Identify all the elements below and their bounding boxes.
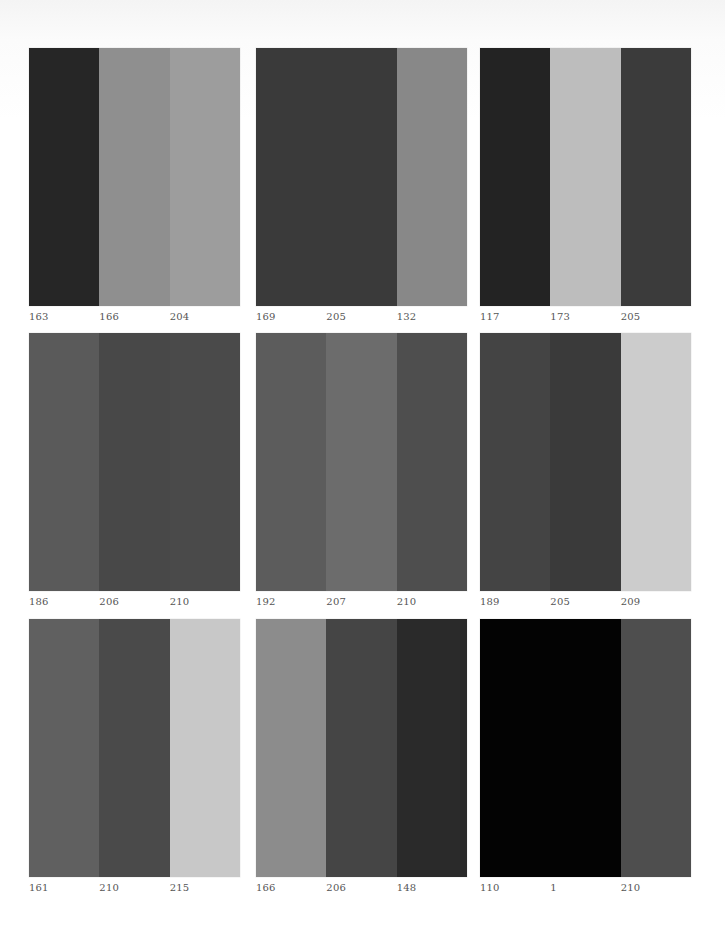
swatch-panel-4: 186 206 210 — [29, 333, 240, 591]
swatch-strip — [256, 333, 467, 591]
value-labels: 186 206 210 — [29, 595, 240, 609]
swatch-9-b — [550, 619, 620, 877]
swatch-panel-6: 189 205 209 — [480, 333, 691, 591]
value-label: 166 — [256, 881, 326, 895]
swatch-grid: 163 166 204 169 205 132 117 173 205 — [0, 0, 725, 934]
swatch-3-a — [480, 48, 550, 306]
value-label: 210 — [621, 881, 691, 895]
value-label: 1 — [550, 881, 620, 895]
value-label: 166 — [99, 310, 169, 324]
value-label: 210 — [170, 595, 240, 609]
swatch-panel-3: 117 173 205 — [480, 48, 691, 306]
value-label: 189 — [480, 595, 550, 609]
value-labels: 161 210 215 — [29, 881, 240, 895]
value-label: 204 — [170, 310, 240, 324]
value-label: 132 — [397, 310, 467, 324]
swatch-4-a — [29, 333, 99, 591]
swatch-4-b — [99, 333, 169, 591]
value-labels: 166 206 148 — [256, 881, 467, 895]
value-label: 206 — [99, 595, 169, 609]
value-label: 206 — [326, 881, 396, 895]
swatch-strip — [29, 333, 240, 591]
swatch-strip — [29, 48, 240, 306]
swatch-6-a — [480, 333, 550, 591]
swatch-6-b — [550, 333, 620, 591]
swatch-5-b — [326, 333, 396, 591]
swatch-panel-5: 192 207 210 — [256, 333, 467, 591]
value-label: 161 — [29, 881, 99, 895]
swatch-panel-8: 166 206 148 — [256, 619, 467, 877]
value-label: 169 — [256, 310, 326, 324]
value-label: 210 — [99, 881, 169, 895]
swatch-strip — [480, 333, 691, 591]
swatch-7-a — [29, 619, 99, 877]
swatch-panel-1: 163 166 204 — [29, 48, 240, 306]
swatch-6-c — [621, 333, 691, 591]
swatch-8-c — [397, 619, 467, 877]
swatch-9-c — [621, 619, 691, 877]
value-labels: 189 205 209 — [480, 595, 691, 609]
swatch-5-a — [256, 333, 326, 591]
swatch-2-c — [397, 48, 467, 306]
swatch-5-c — [397, 333, 467, 591]
swatch-7-b — [99, 619, 169, 877]
swatch-1-a — [29, 48, 99, 306]
swatch-3-b — [550, 48, 620, 306]
swatch-2-a — [256, 48, 326, 306]
swatch-4-c — [170, 333, 240, 591]
swatch-strip — [256, 619, 467, 877]
value-label: 215 — [170, 881, 240, 895]
value-label: 186 — [29, 595, 99, 609]
value-labels: 117 173 205 — [480, 310, 691, 324]
value-label: 205 — [621, 310, 691, 324]
swatch-3-c — [621, 48, 691, 306]
swatch-strip — [480, 48, 691, 306]
swatch-panel-2: 169 205 132 — [256, 48, 467, 306]
swatch-8-a — [256, 619, 326, 877]
swatch-panel-7: 161 210 215 — [29, 619, 240, 877]
swatch-strip — [256, 48, 467, 306]
value-labels: 163 166 204 — [29, 310, 240, 324]
value-label: 173 — [550, 310, 620, 324]
value-label: 209 — [621, 595, 691, 609]
value-label: 163 — [29, 310, 99, 324]
swatch-1-b — [99, 48, 169, 306]
swatch-strip — [480, 619, 691, 877]
value-label: 205 — [550, 595, 620, 609]
swatch-7-c — [170, 619, 240, 877]
value-labels: 169 205 132 — [256, 310, 467, 324]
value-label: 192 — [256, 595, 326, 609]
value-label: 205 — [326, 310, 396, 324]
value-label: 117 — [480, 310, 550, 324]
value-label: 148 — [397, 881, 467, 895]
value-label: 210 — [397, 595, 467, 609]
swatch-panel-9: 110 1 210 — [480, 619, 691, 877]
value-labels: 192 207 210 — [256, 595, 467, 609]
swatch-8-b — [326, 619, 396, 877]
value-labels: 110 1 210 — [480, 881, 691, 895]
swatch-1-c — [170, 48, 240, 306]
swatch-9-a — [480, 619, 550, 877]
value-label: 207 — [326, 595, 396, 609]
value-label: 110 — [480, 881, 550, 895]
swatch-strip — [29, 619, 240, 877]
swatch-2-b — [326, 48, 396, 306]
